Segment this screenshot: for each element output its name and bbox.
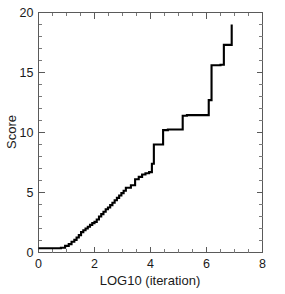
y-tick-label: 20 (20, 6, 34, 20)
x-tick-label: 8 (259, 257, 266, 271)
x-tick-label: 4 (147, 257, 154, 271)
y-tick-label: 0 (27, 246, 34, 260)
x-tick-label: 6 (203, 257, 210, 271)
figure-background (0, 0, 285, 294)
x-tick-label: 2 (91, 257, 98, 271)
x-tick-label: 0 (35, 257, 42, 271)
score-vs-log10-iteration-chart: 02468 05101520 LOG10 (iteration) Score (0, 0, 285, 294)
y-tick-label: 5 (27, 186, 34, 200)
x-axis-title: LOG10 (iteration) (100, 273, 200, 288)
y-tick-label: 15 (20, 66, 34, 80)
chart-figure: 02468 05101520 LOG10 (iteration) Score (0, 0, 285, 294)
y-axis-title: Score (4, 115, 19, 149)
y-tick-label: 10 (20, 126, 34, 140)
